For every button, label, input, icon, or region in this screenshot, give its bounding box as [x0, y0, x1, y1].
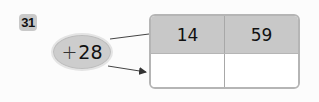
operation-value: 28: [78, 41, 102, 63]
input-cell: 14: [151, 16, 224, 53]
plus-sign: +: [61, 41, 77, 63]
input-row: 14 59: [151, 16, 298, 54]
output-arrow: [108, 66, 146, 72]
operation-oval: +28: [51, 33, 113, 71]
function-table: 14 59: [149, 14, 300, 89]
answer-cell[interactable]: [224, 54, 298, 88]
input-cell: 59: [224, 16, 298, 53]
output-row: [151, 54, 298, 88]
input-connector-line: [110, 34, 149, 39]
answer-cell[interactable]: [151, 54, 224, 88]
